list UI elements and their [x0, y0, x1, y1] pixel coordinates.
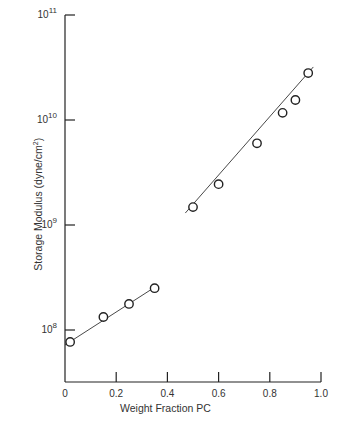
- data-point-marker: [189, 203, 197, 211]
- y-axis-label: Storage Modulus (dyne/cm2): [32, 104, 45, 304]
- tick-labels: 1081091010101100.20.40.60.81.0: [37, 6, 328, 399]
- data-point-marker: [253, 139, 261, 147]
- data-point-marker: [125, 300, 133, 308]
- data-point-marker: [278, 109, 286, 117]
- chart: 1081091010101100.20.40.60.81.0: [0, 0, 340, 424]
- data-point-marker: [150, 284, 158, 292]
- data-point-marker: [99, 313, 107, 321]
- x-tick-label: 0.6: [212, 388, 226, 399]
- data-point-marker: [66, 338, 74, 346]
- axes: [65, 15, 321, 382]
- y-tick-label: 108: [41, 321, 57, 335]
- x-tick-label: 0.4: [160, 388, 174, 399]
- data-point-marker: [291, 96, 299, 104]
- y-tick-label: 1011: [38, 6, 58, 20]
- x-tick-label: 0: [62, 388, 68, 399]
- fit-line: [65, 287, 155, 345]
- x-tick-label: 0.2: [109, 388, 123, 399]
- x-axis-label: Weight Fraction PC: [120, 402, 211, 414]
- data-point-marker: [214, 180, 222, 188]
- data-point-marker: [304, 69, 312, 77]
- fit-line: [185, 67, 313, 213]
- x-tick-label: 1.0: [314, 388, 328, 399]
- x-tick-label: 0.8: [263, 388, 277, 399]
